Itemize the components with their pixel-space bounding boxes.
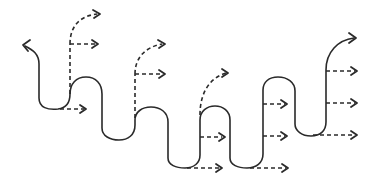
main-wave-path [25,38,354,168]
start-arrowhead-icon [23,40,30,51]
wave-arrow-diagram [0,0,377,181]
dashed-branch-6 [313,67,357,139]
dashed-branch-5 [250,100,288,172]
dashed-branch-4 [187,69,228,172]
